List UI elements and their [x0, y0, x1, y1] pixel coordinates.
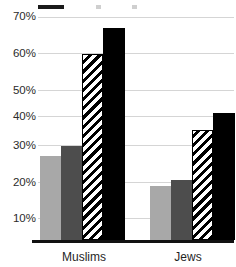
legend-item-1 — [38, 0, 66, 9]
legend-swatch-partial2-icon — [132, 5, 137, 9]
bar-muslims-series3 — [82, 54, 103, 240]
y-tick-70: 70% — [2, 11, 36, 22]
bar-jews-series2 — [171, 180, 192, 240]
y-tick-60: 60% — [2, 48, 36, 59]
bar-jews-series1 — [150, 186, 171, 240]
bar-group-jews — [142, 14, 234, 240]
y-tick-50: 50% — [2, 85, 36, 96]
y-tick-20: 20% — [2, 177, 36, 188]
bar-muslims-series1 — [40, 156, 61, 240]
y-tick-40: 40% — [2, 111, 36, 122]
y-axis: 70% 60% 50% 40% 30% 20% 10% — [0, 0, 36, 267]
x-label-jews: Jews — [142, 250, 234, 264]
x-label-muslims: Muslims — [38, 250, 130, 264]
legend-item-3 — [132, 0, 139, 9]
x-axis-baseline — [32, 240, 234, 243]
legend-swatch-partial-icon — [96, 5, 101, 9]
bar-chart: 70% 60% 50% 40% 30% 20% 10% Muslims — [0, 0, 236, 267]
legend-swatch-black-icon — [38, 5, 64, 9]
bar-muslims-series4 — [103, 28, 125, 240]
bar-muslims-series2 — [61, 146, 82, 240]
bar-jews-series4 — [213, 113, 235, 240]
y-tick-30: 30% — [2, 140, 36, 151]
bar-group-muslims — [38, 14, 130, 240]
legend-item-2 — [96, 0, 103, 9]
plot-area — [38, 14, 234, 240]
y-tick-10: 10% — [2, 213, 36, 224]
bar-jews-series3 — [192, 130, 213, 240]
